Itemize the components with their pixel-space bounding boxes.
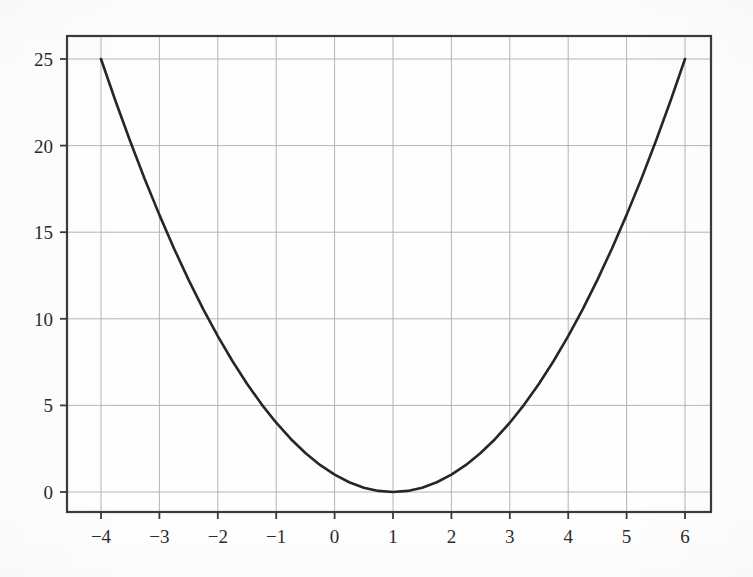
x-tick-label: −2 [208,527,228,546]
x-tick-label: 1 [388,527,398,546]
y-tick-label: 5 [44,396,54,415]
horizontal-grid-lines [67,59,711,492]
y-tick-label: 10 [34,309,53,328]
grid-lines [67,36,711,512]
plot-area [0,0,753,577]
plot-frame-border [67,36,711,512]
figure-canvas: 0510152025 −4−3−2−10123456 [0,0,753,577]
x-tick-label: −4 [91,527,111,546]
x-tick-label: −1 [266,527,286,546]
x-tick-label: 0 [330,527,340,546]
x-tick-label: 3 [505,527,515,546]
y-tick-label: 20 [34,136,53,155]
x-tick-label: 2 [447,527,457,546]
x-tick-label: 4 [563,527,573,546]
x-tick-label: 5 [622,527,632,546]
x-tick-label: −3 [149,527,169,546]
vertical-grid-lines [101,36,685,512]
y-tick-label: 15 [34,223,53,242]
x-tick-label: 6 [680,527,690,546]
y-tick-label: 25 [34,50,53,69]
y-tick-label: 0 [44,483,54,502]
